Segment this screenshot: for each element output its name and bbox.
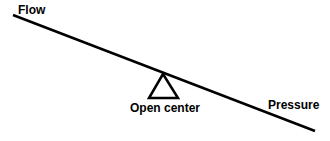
pressure-label: Pressure	[268, 99, 319, 111]
open-center-label: Open center	[130, 102, 200, 114]
flow-label: Flow	[18, 4, 45, 16]
open-center-diagram: Flow Open center Pressure	[0, 0, 330, 141]
lever-graphic	[0, 0, 330, 141]
